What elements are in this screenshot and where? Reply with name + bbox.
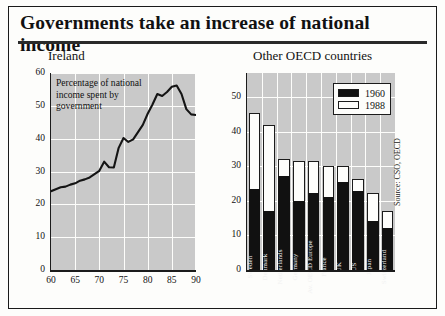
oecd-y-tick-label: 40 [217,126,241,136]
oecd-y-tick-label: 50 [217,91,241,101]
bar-category-label: Denmark [261,254,269,281]
ireland-y-tick-label: 40 [21,133,45,143]
bar-1960 [337,182,349,270]
bar-group: Denmark [263,73,275,270]
bar-category-label: Switzerland [380,250,388,285]
ireland-x-tick-label: 70 [87,275,111,285]
source-note: Source: CSO, OECD [393,138,402,206]
legend-swatch-icon [338,89,359,98]
title-divider [18,41,427,44]
ireland-x-tick-label: 65 [63,275,87,285]
legend-swatch-icon [338,101,359,110]
ireland-panel-title: Ireland [48,48,85,64]
ireland-x-tick-label: 75 [112,275,136,285]
ireland-x-axis [50,270,197,272]
bar-category-label: Sweden [246,256,254,279]
bar-category-label: France [320,257,328,277]
ireland-y-tick-label: 0 [21,264,45,274]
ireland-x-tick-label: 80 [136,275,160,285]
ireland-y-axis [50,73,52,272]
bar-group: Netherlands [278,73,290,270]
ireland-x-tick-label: 85 [160,275,184,285]
oecd-y-tick-label: 30 [217,160,241,170]
bar-category-label: Germany [291,254,299,281]
oecd-panel-title: Other OECD countries [253,48,372,64]
ireland-y-tick-label: 60 [21,67,45,77]
oecd-y-tick-label: 0 [217,264,241,274]
bar-category-label: Netherlands [276,250,284,285]
bar-group: Germany [293,73,305,270]
oecd-y-axis [246,73,248,272]
legend-item-1988: 1988 [338,99,385,111]
ireland-y-tick-label: 20 [21,198,45,208]
oecd-y-tick-label: 10 [217,229,241,239]
ireland-x-tick-label: 90 [184,275,208,285]
ireland-annotation: Percentage of national income spent by g… [56,77,164,112]
legend-label: 1960 [365,88,385,99]
oecd-y-tick-label: 20 [217,195,241,205]
ireland-y-tick-label: 50 [21,100,45,110]
legend-item-1960: 1960 [338,87,385,99]
legend: 19601988 [333,83,391,115]
ireland-y-tick-label: 30 [21,166,45,176]
bar-1960 [352,191,364,270]
chart-figure: Governments take an increase of national… [0,0,445,316]
bar-group: Av. OECD Europe [308,73,320,270]
bar-group: Sweden [249,73,261,270]
ireland-x-tick-label: 60 [39,275,63,285]
ireland-y-tick-label: 10 [21,231,45,241]
legend-label: 1988 [365,100,385,111]
bar-category-label: Japan [365,259,373,275]
oecd-x-axis [246,270,396,272]
bar-category-label: Av. OECD Europe [306,240,314,294]
